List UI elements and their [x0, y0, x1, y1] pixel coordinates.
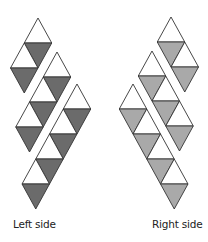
shaded-down-triangle — [22, 184, 50, 209]
left-side-label: Left side — [13, 218, 56, 230]
white-up-triangle — [43, 52, 71, 77]
white-up-triangle — [24, 18, 52, 43]
white-up-triangle — [157, 17, 185, 42]
triangle-strips-figure — [0, 0, 208, 242]
right-side-panel — [119, 17, 198, 209]
shaded-down-triangle — [166, 126, 194, 151]
shaded-down-triangle — [161, 184, 189, 209]
shaded-down-triangle — [16, 127, 44, 152]
shaded-down-triangle — [171, 67, 199, 92]
white-up-triangle — [119, 84, 147, 109]
white-up-triangle — [63, 84, 91, 109]
shaded-down-triangle — [11, 68, 39, 93]
white-up-triangle — [138, 51, 166, 76]
left-side-panel — [11, 18, 91, 209]
right-side-label: Right side — [152, 218, 203, 230]
